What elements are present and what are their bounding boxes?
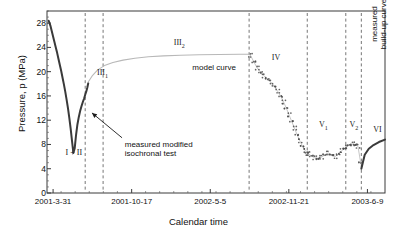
- region-label-text: I + II: [66, 148, 83, 157]
- data-point: [345, 145, 347, 147]
- data-point: [347, 145, 349, 147]
- data-point: [292, 120, 294, 122]
- data-point: [322, 158, 324, 160]
- x-tick-label: 2001-3-31: [18, 197, 88, 206]
- region-label-iii1: III1: [97, 68, 108, 79]
- data-point: [258, 72, 260, 74]
- data-point: [338, 153, 340, 155]
- data-point: [319, 155, 321, 157]
- data-point: [324, 154, 326, 156]
- data-point: [311, 155, 313, 157]
- data-point: [343, 148, 345, 150]
- data-point: [262, 74, 264, 76]
- data-point: [284, 108, 286, 110]
- data-point: [358, 161, 360, 163]
- data-point: [353, 144, 355, 146]
- data-point: [294, 134, 296, 136]
- data-point: [251, 53, 253, 55]
- plot-frame: [47, 11, 385, 193]
- annotation-text-line2: isochronal test: [125, 149, 193, 158]
- x-axis-title: Calendar time: [0, 216, 397, 227]
- data-point: [353, 141, 355, 143]
- data-point: [297, 134, 299, 136]
- data-point: [250, 56, 252, 58]
- data-point: [285, 99, 287, 101]
- data-point: [326, 150, 328, 152]
- data-point: [256, 66, 258, 68]
- region-label-text: VI: [373, 125, 381, 134]
- data-point: [295, 129, 297, 131]
- region-label-iv: IV: [272, 53, 280, 62]
- data-point: [300, 145, 302, 147]
- data-point: [262, 77, 264, 79]
- data-point: [293, 126, 295, 128]
- data-point: [253, 61, 255, 63]
- data-point: [356, 147, 358, 149]
- data-point: [305, 152, 307, 154]
- series-line: [346, 144, 361, 163]
- annotation-text-line1: measured: [370, 0, 379, 72]
- data-point: [251, 62, 253, 64]
- data-point: [270, 83, 272, 85]
- x-tick-label: 2002-11-21: [254, 197, 324, 206]
- data-point: [336, 153, 338, 155]
- region-label-iii2: III2: [174, 38, 185, 49]
- data-point: [290, 112, 292, 114]
- data-point: [260, 72, 262, 74]
- x-axis-title-text: Calendar time: [169, 216, 228, 227]
- data-point: [248, 56, 250, 58]
- data-point: [276, 92, 278, 94]
- data-point: [360, 162, 362, 164]
- annotation-measured-modified-isochronal-test: measured modifiedisochronal test: [125, 140, 193, 158]
- data-point: [281, 103, 283, 105]
- data-point: [258, 65, 260, 67]
- data-point: [350, 145, 352, 147]
- data-point: [295, 126, 297, 128]
- data-point: [359, 147, 361, 149]
- annotation-model-curve: model curve: [192, 63, 236, 72]
- data-point: [255, 60, 257, 62]
- region-label-subscript: 2: [355, 125, 358, 131]
- data-point: [287, 116, 289, 118]
- data-point: [281, 99, 283, 101]
- data-point: [348, 144, 350, 146]
- data-point: [319, 158, 321, 160]
- annotation-measured-build-up-curve: measuredbuild-up curve: [370, 0, 388, 72]
- data-point: [327, 154, 329, 156]
- data-point: [301, 142, 303, 144]
- data-point: [316, 158, 318, 160]
- data-point: [312, 154, 314, 156]
- data-point: [322, 153, 324, 155]
- data-point: [268, 79, 270, 81]
- region-label-i-ii: I + II: [66, 148, 83, 157]
- region-label-subscript: 2: [182, 42, 185, 48]
- data-point: [288, 112, 290, 114]
- data-point: [309, 151, 311, 153]
- data-point: [307, 151, 309, 153]
- region-label-text: III: [97, 68, 105, 77]
- data-point: [271, 85, 273, 87]
- data-point: [336, 157, 338, 159]
- data-point: [289, 121, 291, 123]
- region-label-text: III: [174, 38, 182, 47]
- data-point: [275, 89, 277, 91]
- data-point: [261, 71, 263, 73]
- data-point: [298, 138, 300, 140]
- annotation-text-line2: build-up curve: [379, 0, 388, 72]
- data-point: [292, 129, 294, 131]
- data-point: [356, 144, 358, 146]
- data-point: [278, 96, 280, 98]
- data-point: [334, 157, 336, 159]
- data-point: [305, 154, 307, 156]
- data-point: [312, 159, 314, 161]
- data-point: [272, 83, 274, 85]
- data-point: [352, 141, 354, 143]
- region-label-subscript: 1: [325, 125, 328, 131]
- data-point: [345, 148, 347, 150]
- data-point: [258, 69, 260, 71]
- data-point: [286, 107, 288, 109]
- data-point: [255, 69, 257, 71]
- data-point: [307, 154, 309, 156]
- x-tick-label: 2001-10-17: [97, 197, 167, 206]
- region-label-v1: V1: [319, 120, 328, 131]
